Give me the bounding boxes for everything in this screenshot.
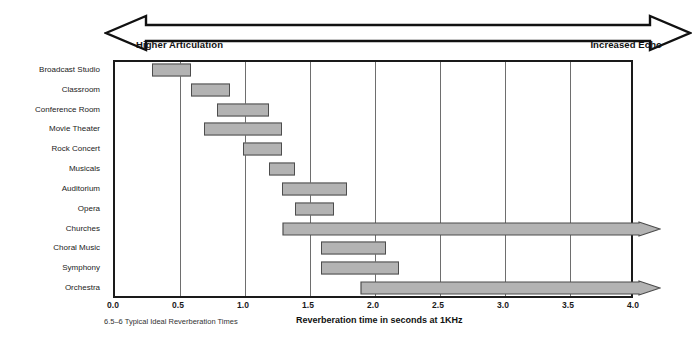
x-tick-label: 2.0 [367, 300, 379, 310]
range-bar [243, 143, 282, 156]
arrow-label-right: Increased Echo [590, 39, 662, 50]
range-bar [321, 262, 399, 275]
value-axis-ticks: 0.00.51.01.52.02.53.03.54.0 [113, 300, 633, 314]
x-tick-label: 2.5 [432, 300, 444, 310]
range-bar-open-ended [282, 221, 661, 237]
range-bar [321, 242, 386, 255]
x-axis-title: Reverberation time in seconds at 1KHz [296, 315, 463, 325]
arrow-label-left: Higher Articulation [136, 39, 223, 50]
category-label: Rock Concert [52, 144, 100, 154]
figure-root: Higher Articulation Increased Echo Broad… [0, 0, 696, 347]
x-tick-label: 1.5 [302, 300, 314, 310]
range-bar [282, 182, 347, 195]
range-bar [217, 103, 269, 116]
category-label: Symphony [62, 263, 100, 273]
category-label: Classroom [62, 85, 100, 95]
category-label: Broadcast Studio [39, 65, 100, 75]
x-tick-label: 3.0 [497, 300, 509, 310]
figure-caption: 6.5–6 Typical Ideal Reverberation Times [104, 317, 238, 326]
category-label: Orchestra [65, 283, 100, 293]
x-tick-label: 0.0 [107, 300, 119, 310]
range-bar [204, 123, 282, 136]
category-axis-labels: Broadcast StudioClassroomConference Room… [0, 60, 108, 298]
category-label: Opera [78, 204, 100, 214]
range-bar [295, 202, 334, 215]
range-bar [152, 63, 191, 76]
category-label: Choral Music [53, 243, 100, 253]
x-tick-label: 4.0 [627, 300, 639, 310]
category-label: Movie Theater [49, 124, 100, 134]
range-bar [191, 83, 230, 96]
category-label: Musicals [69, 164, 100, 174]
category-label: Churches [66, 224, 100, 234]
range-bar-open-ended [360, 280, 661, 296]
range-bar [269, 163, 295, 176]
x-tick-label: 0.5 [172, 300, 184, 310]
x-tick-label: 1.0 [237, 300, 249, 310]
x-tick-label: 3.5 [562, 300, 574, 310]
category-label: Conference Room [35, 105, 100, 115]
category-label: Auditorium [62, 184, 100, 194]
bars-layer [113, 60, 633, 298]
articulation-echo-arrow: Higher Articulation Increased Echo [104, 14, 692, 52]
